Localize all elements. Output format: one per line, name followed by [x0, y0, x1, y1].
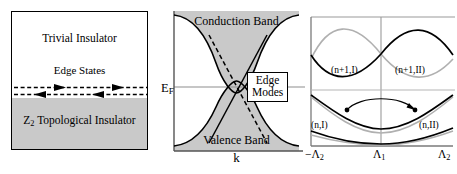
trivial-insulator-label: Trivial Insulator — [12, 33, 147, 45]
switching-point-left — [345, 108, 350, 113]
tick-symbol-0: Λ — [312, 148, 320, 160]
valence-band-label: Valence Band — [174, 134, 299, 146]
conduction-band-label: Conduction Band — [174, 15, 299, 27]
edge-states-label: Edge States — [12, 65, 147, 76]
panel-band-structure: (n+1,I) (n+1,II) (n,I) (n,II) −Λ2 Λ1 Λ2 — [307, 11, 455, 163]
tick-subscript-0: 2 — [320, 153, 324, 162]
edge-state-arrowhead-right-1 — [54, 84, 66, 91]
band-label-n-I: (n,I) — [311, 121, 328, 131]
panel-interface-schematic: Trivial Insulator Edge States Z2 Topolog… — [11, 11, 148, 150]
edge-modes-callout: Edge Modes — [247, 72, 288, 102]
panel-edge-mode-dispersion: EF Conduction Band Valence Band Edge Mod… — [162, 11, 305, 163]
edge-state-arrowhead-right-2 — [112, 84, 124, 91]
topological-insulator-label: Z2 Topological Insulator — [12, 115, 147, 128]
edge-states-arrows — [12, 83, 149, 101]
band-label-n-plus-1-II: (n+1,II) — [395, 66, 425, 76]
topological-suffix: Topological Insulator — [34, 114, 135, 126]
switching-point-right — [413, 108, 418, 113]
tick-subscript-1: 1 — [381, 153, 385, 162]
xaxis-tick-neg-lambda2: −Λ2 — [305, 149, 324, 162]
momentum-axis-label: k — [174, 151, 299, 164]
band-label-n-plus-1-I: (n+1,I) — [331, 66, 358, 76]
tick-subscript-2: 2 — [446, 153, 450, 162]
fermi-level-symbol: E — [161, 81, 169, 95]
xaxis-tick-lambda2: Λ2 — [438, 149, 450, 162]
edge-modes-line-2: Modes — [252, 86, 283, 98]
fermi-level-label: EF — [161, 82, 174, 96]
xaxis-tick-lambda1: Λ1 — [373, 149, 385, 162]
edge-state-arrowhead-left-1 — [34, 91, 46, 98]
edge-modes-line-1: Edge — [252, 74, 283, 86]
band-structure-plot — [307, 11, 455, 163]
edge-state-arrowhead-left-2 — [92, 91, 104, 98]
band-label-n-II: (n,II) — [419, 121, 439, 131]
figure-container: Trivial Insulator Edge States Z2 Topolog… — [0, 0, 457, 174]
fermi-level-subscript: F — [169, 86, 174, 96]
